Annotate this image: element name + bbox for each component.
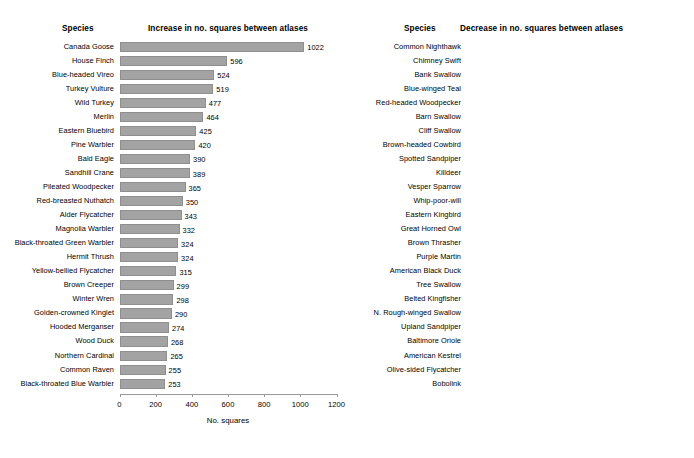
species-label: Black-throated Green Warbler [0, 238, 114, 248]
species-label: Alder Flycatcher [0, 210, 114, 220]
bar-row: American Kestrel-205 [347, 349, 694, 363]
bar-track: 290 [120, 308, 348, 318]
bar-track: 255 [120, 365, 348, 375]
bar [120, 308, 172, 318]
bar-track: 365 [120, 182, 348, 192]
bar-row: American Black Duck-270 [347, 265, 694, 279]
axis-tick [264, 394, 265, 397]
bar-track: 464 [120, 112, 348, 122]
bar-track: 274 [120, 322, 348, 332]
bar-track: 265 [120, 351, 348, 361]
bar-row: Wood Duck268 [0, 335, 347, 349]
bar-track: 477 [120, 98, 348, 108]
bar [120, 252, 179, 262]
bar [120, 379, 166, 389]
chart-panel-increase: Species Increase in no. squares between … [0, 0, 347, 458]
bar-value-label: 365 [189, 184, 201, 193]
axis-tick-label: 200 [149, 400, 162, 409]
species-label: Upland Sandpiper [347, 322, 461, 332]
bar [120, 154, 191, 164]
bar-row: Purple Martin-287 [347, 251, 694, 265]
species-label: Red-breasted Nuthatch [0, 196, 114, 206]
bar-value-label: 299 [177, 282, 189, 291]
chart-panel-decrease: Species Decrease in no. squares between … [347, 0, 694, 458]
bar [120, 98, 206, 108]
species-label: Canada Goose [0, 42, 114, 52]
axis-tick-label: 1000 [292, 400, 309, 409]
plot-area-decrease: Common Nighthawk-545Chimney Swift-485Ban… [347, 40, 694, 391]
bar-value-label: 315 [179, 268, 191, 277]
species-label: Pine Warbler [0, 140, 114, 150]
species-label: N. Rough-winged Swallow [347, 308, 461, 318]
panel-title-decrease: Decrease in no. squares between atlases [460, 24, 623, 33]
species-label: Magnolia Warbler [0, 224, 114, 234]
species-label: Wood Duck [0, 336, 114, 346]
species-label: Sandhill Crane [0, 168, 114, 178]
bar [120, 238, 179, 248]
bar-track: 425 [120, 126, 348, 136]
axis-tick [228, 394, 229, 397]
species-label: Winter Wren [0, 294, 114, 304]
bar-row: Yellow-bellied Flycatcher315 [0, 265, 347, 279]
plot-area-increase: Canada Goose1022House Finch596Blue-heade… [0, 40, 347, 391]
axis-tick-label: 800 [258, 400, 271, 409]
species-label: Red-headed Woodpecker [347, 98, 461, 108]
bar-value-label: 477 [209, 99, 221, 108]
bar-row: Hermit Thrush324 [0, 251, 347, 265]
bar-track: 268 [120, 336, 348, 346]
species-label: Eastern Kingbird [347, 210, 461, 220]
species-label: Turkey Vulture [0, 84, 114, 94]
bar [120, 294, 174, 304]
species-label: Spotted Sandpiper [347, 154, 461, 164]
bar-row: Turkey Vulture519 [0, 82, 347, 96]
axis-tick [337, 394, 338, 397]
bar-track: 519 [120, 84, 348, 94]
species-label: Common Raven [0, 365, 114, 375]
species-label: Yellow-bellied Flycatcher [0, 266, 114, 276]
bar-row: Chimney Swift-485 [347, 54, 694, 68]
x-axis-increase: 020040060080010001200No. squares [120, 394, 337, 424]
bar-row: Black-throated Blue Warbler253 [0, 377, 347, 391]
bar-value-label: 290 [175, 310, 187, 319]
bar [120, 336, 168, 346]
bar-row: Brown Creeper299 [0, 279, 347, 293]
panel-header-decrease: Species Decrease in no. squares between … [347, 24, 694, 40]
bar-value-label: 425 [199, 127, 211, 136]
bar-row: Eastern Kingbird-295 [347, 209, 694, 223]
bar-row: Golden-crowned Kinglet290 [0, 307, 347, 321]
bar-row: Sandhill Crane389 [0, 166, 347, 180]
bar-row: Bank Swallow-465 [347, 68, 694, 82]
bar [120, 365, 166, 375]
bar-row: Merlin464 [0, 110, 347, 124]
bar-row: Barn Swallow-351 [347, 110, 694, 124]
species-label: Hermit Thrush [0, 252, 114, 262]
bar-row: Killdeer-314 [347, 166, 694, 180]
species-label: Bald Eagle [0, 154, 114, 164]
bar-row: Magnolia Warbler332 [0, 223, 347, 237]
bar-row: Whip-poor-will-307 [347, 195, 694, 209]
bar [120, 56, 228, 66]
axis-tick-label: 0 [117, 400, 121, 409]
bar-row: Winter Wren298 [0, 293, 347, 307]
species-label: Tree Swallow [347, 280, 461, 290]
species-label: Chimney Swift [347, 56, 461, 66]
bar-value-label: 464 [206, 113, 218, 122]
bar-row: N. Rough-winged Swallow-234 [347, 307, 694, 321]
species-label: Black-throated Blue Warbler [0, 379, 114, 389]
bar-row: Eastern Bluebird425 [0, 124, 347, 138]
species-label: Barn Swallow [347, 112, 461, 122]
species-label: Golden-crowned Kinglet [0, 308, 114, 318]
bar-track: 524 [120, 70, 348, 80]
bar-row: Bobolink-193 [347, 377, 694, 391]
bar-row: Black-throated Green Warbler324 [0, 237, 347, 251]
bar-row: Spotted Sandpiper-316 [347, 152, 694, 166]
bar-value-label: 1022 [307, 43, 324, 52]
bar [120, 126, 197, 136]
bar-value-label: 324 [181, 240, 193, 249]
bar-track: 596 [120, 56, 348, 66]
species-label: Wild Turkey [0, 98, 114, 108]
species-label: Common Nighthawk [347, 42, 461, 52]
species-label: Vesper Sparrow [347, 182, 461, 192]
species-label: Killdeer [347, 168, 461, 178]
bar-track: 389 [120, 168, 348, 178]
